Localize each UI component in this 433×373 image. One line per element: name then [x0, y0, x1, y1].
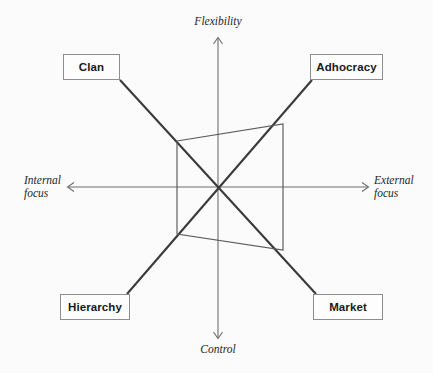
axis-label-control: Control [168, 343, 268, 356]
cvf-diagram: Clan Adhocracy Hierarchy Market Flexibil… [0, 0, 433, 373]
axis-label-external-focus-line2: focus [374, 187, 414, 200]
quadrant-label-adhocracy: Adhocracy [316, 61, 376, 73]
axis-label-flexibility: Flexibility [168, 15, 268, 28]
quadrant-box-hierarchy[interactable]: Hierarchy [60, 294, 130, 320]
axis-label-internal-focus-line1: Internal [24, 174, 61, 187]
quadrant-label-clan: Clan [79, 61, 104, 73]
quadrant-box-clan[interactable]: Clan [63, 54, 120, 80]
axis-label-external-focus: External focus [374, 174, 414, 200]
axis-label-external-focus-line1: External [374, 174, 414, 187]
axis-label-internal-focus-line2: focus [24, 187, 61, 200]
quadrant-box-adhocracy[interactable]: Adhocracy [310, 54, 383, 80]
axis-label-internal-focus: Internal focus [24, 174, 61, 200]
quadrant-label-hierarchy: Hierarchy [68, 301, 122, 313]
quadrant-box-market[interactable]: Market [313, 294, 383, 320]
quadrant-label-market: Market [329, 301, 367, 313]
